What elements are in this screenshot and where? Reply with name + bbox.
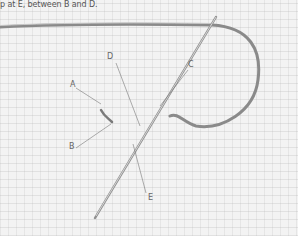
thread-tail (101, 110, 112, 122)
label-c: C (188, 60, 194, 69)
label-a: A (70, 80, 75, 89)
label-e: E (148, 193, 153, 202)
caption-text: p at E, between B and D. (0, 0, 97, 9)
leader-b (76, 124, 111, 148)
leader-a (76, 88, 101, 104)
leader-c (160, 70, 188, 106)
needle-highlight (96, 17, 216, 216)
label-b: B (69, 142, 75, 151)
thread (0, 24, 259, 126)
label-d: D (107, 52, 113, 61)
leader-d (116, 63, 140, 126)
leader-e (133, 144, 146, 193)
